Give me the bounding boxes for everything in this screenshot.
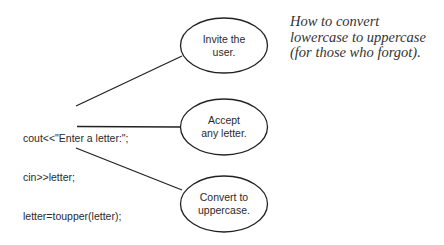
bubble-accept-line2: any letter. (180, 127, 268, 140)
bubble-accept: Accept any letter. (180, 114, 268, 140)
diagram-canvas: cout<<"Enter a letter:"; cin>>letter; le… (0, 0, 444, 245)
bubble-invite-line2: user. (180, 46, 268, 59)
bubble-invite: Invite the user. (180, 33, 268, 59)
bubble-convert: Convert to uppercase. (180, 191, 268, 217)
figure-caption: How to convert lowercase to uppercase (f… (290, 14, 440, 61)
code-line: letter=toupper(letter); (23, 210, 129, 223)
code-line: cout<<"Enter a letter:"; (23, 132, 129, 145)
code-snippet: cout<<"Enter a letter:"; cin>>letter; le… (23, 106, 129, 245)
bubble-accept-line1: Accept (180, 114, 268, 127)
bubble-invite-line1: Invite the (180, 33, 268, 46)
code-line: cin>>letter; (23, 171, 129, 184)
connector-invite (76, 56, 182, 106)
bubble-convert-line2: uppercase. (180, 204, 268, 217)
bubble-convert-line1: Convert to (180, 191, 268, 204)
